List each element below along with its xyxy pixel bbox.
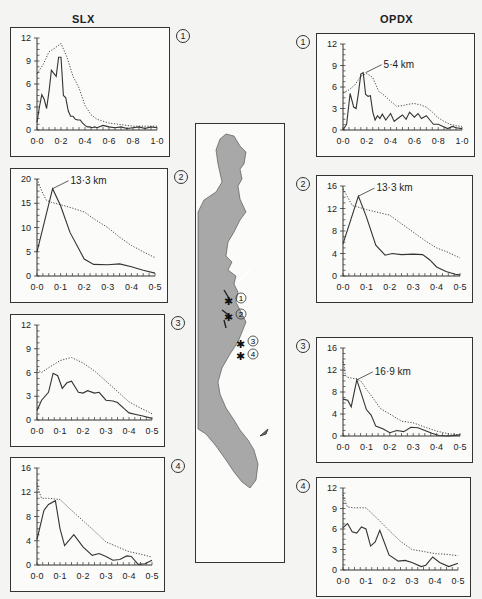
series-dotted: [37, 179, 155, 258]
chart-panel-opdx-1: 0·00·20·40·60·81·00369125·4 km: [316, 33, 475, 157]
x-tick-label: 0·2: [383, 442, 396, 452]
x-tick-label: 0·3: [99, 571, 112, 581]
peak-annotation: 13·3 km: [71, 175, 107, 186]
series-dotted: [37, 43, 157, 126]
annotation-leader: [366, 65, 382, 73]
y-tick-label: 15: [21, 198, 31, 208]
chart-panel-opdx-4: 0·00·10·20·30·40·5036912: [316, 477, 471, 597]
x-tick-label: 0·0: [336, 136, 349, 146]
coastline-map: ✱ ✱ ✱ ✱ 1 2 3 4: [196, 124, 286, 564]
site-number-badge: 2: [296, 177, 310, 191]
x-tick-label: 0·4: [430, 442, 443, 452]
site-number-badge: 3: [296, 339, 310, 353]
site-star-3: ✱: [236, 338, 245, 350]
y-tick-label: 0: [332, 125, 337, 135]
x-tick-label: 0·2: [383, 282, 396, 292]
x-tick-label: 0·6: [102, 136, 115, 146]
x-tick-label: 0·6: [408, 136, 421, 146]
line-plot: 0·00·10·20·30·40·50481216: [11, 458, 166, 593]
x-tick-label: 0·5: [453, 442, 466, 452]
site-star-1: ✱: [224, 295, 233, 307]
x-tick-label: 0·5: [148, 282, 161, 292]
x-tick-label: 0·2: [76, 426, 89, 436]
line-plot: 0·00·20·40·60·81·0036912: [11, 28, 171, 158]
site-number-badge: 1: [296, 35, 310, 49]
annotation-leader: [53, 181, 69, 189]
y-tick-label: 0: [26, 415, 31, 425]
x-tick-label: 0·3: [99, 426, 112, 436]
site-number-badge: 3: [171, 316, 185, 330]
site-star-2: ✱: [224, 311, 233, 323]
y-tick-label: 0: [332, 271, 337, 281]
peak-annotation: 16·9 km: [375, 366, 411, 377]
chart-panel-opdx-3: 0·00·10·20·30·40·5048121616·9 km: [316, 337, 473, 463]
x-tick-label: 0·0: [336, 282, 349, 292]
x-tick-label: 0·0: [30, 571, 43, 581]
x-tick-label: 0·5: [453, 282, 466, 292]
line-plot: 0·00·20·40·60·81·00369125·4 km: [317, 34, 476, 158]
x-tick-label: 0·0: [336, 442, 349, 452]
series-solid: [37, 373, 152, 418]
x-tick-label: 0·3: [407, 282, 420, 292]
y-tick-label: 8: [332, 387, 337, 397]
y-tick-label: 12: [21, 320, 31, 330]
series-solid: [343, 524, 458, 567]
x-tick-label: 0·3: [405, 576, 418, 586]
y-tick-label: 12: [327, 365, 337, 375]
y-tick-label: 0: [26, 560, 31, 570]
site-number-badge: 1: [176, 29, 190, 43]
site-number-badge: 2: [174, 170, 188, 184]
column-title-slx: SLX: [72, 13, 95, 25]
y-tick-label: 5: [26, 247, 31, 257]
line-plot: 0·00·10·20·30·40·5036912: [11, 315, 166, 448]
series-dotted: [37, 483, 152, 557]
x-tick-label: 0·5: [451, 576, 464, 586]
y-tick-label: 4: [332, 409, 337, 419]
x-tick-label: 0·4: [78, 136, 91, 146]
svg-text:2: 2: [239, 310, 244, 319]
y-tick-label: 10: [21, 223, 31, 233]
x-tick-label: 0·3: [101, 282, 114, 292]
column-title-opdx: OPDX: [380, 13, 413, 25]
y-tick-label: 9: [26, 56, 31, 66]
x-tick-label: 0·2: [382, 576, 395, 586]
x-tick-label: 0·1: [360, 282, 373, 292]
y-tick-label: 12: [21, 33, 31, 43]
x-tick-label: 0·5: [145, 571, 158, 581]
chart-panel-slx-2: 0·00·10·20·30·40·50510152013·3 km: [10, 168, 168, 303]
x-tick-label: 0·2: [78, 282, 91, 292]
y-tick-label: 8: [26, 512, 31, 522]
series-solid: [343, 380, 460, 436]
x-tick-label: 0·4: [384, 136, 397, 146]
site-star-4: ✱: [236, 350, 245, 362]
chart-panel-slx-1: 0·00·20·40·60·81·0036912: [10, 27, 170, 157]
y-tick-label: 12: [327, 483, 337, 493]
y-tick-label: 16: [327, 343, 337, 353]
y-tick-label: 9: [332, 61, 337, 71]
y-tick-label: 8: [332, 226, 337, 236]
x-tick-label: 0·3: [407, 442, 420, 452]
annotation-leader: [357, 372, 373, 380]
x-tick-label: 0·4: [122, 571, 135, 581]
x-tick-label: 1·0: [150, 136, 163, 146]
y-tick-label: 4: [332, 249, 337, 259]
y-tick-label: 9: [332, 504, 337, 514]
x-tick-label: 0·1: [359, 576, 372, 586]
x-tick-label: 0·5: [145, 426, 158, 436]
series-solid: [37, 189, 155, 273]
y-tick-label: 4: [26, 536, 31, 546]
line-plot: 0·00·10·20·30·40·5048121613·3 km: [317, 176, 474, 304]
site-map: ✱ ✱ ✱ ✱ 1 2 3 4: [195, 123, 285, 563]
annotation-leader: [358, 188, 374, 196]
chart-panel-opdx-2: 0·00·10·20·30·40·5048121613·3 km: [316, 175, 473, 303]
x-tick-label: 0·8: [126, 136, 139, 146]
y-tick-label: 12: [21, 487, 31, 497]
site-number-badge: 4: [296, 479, 310, 493]
x-tick-label: 0·0: [336, 576, 349, 586]
peak-annotation: 5·4 km: [384, 59, 415, 70]
y-tick-label: 3: [26, 391, 31, 401]
series-dotted: [37, 358, 152, 414]
y-tick-label: 16: [21, 463, 31, 473]
y-tick-label: 9: [26, 344, 31, 354]
y-tick-label: 0: [332, 431, 337, 441]
